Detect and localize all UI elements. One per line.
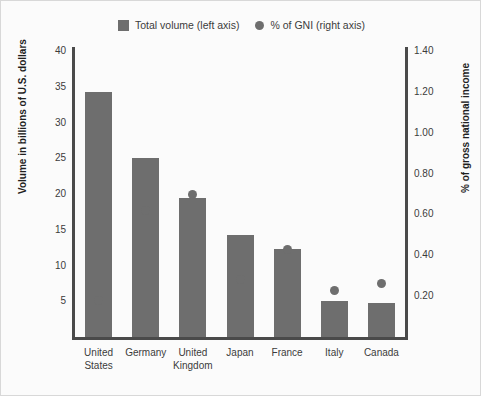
x-axis-category-label: UnitedStates: [75, 347, 122, 372]
chart-figure: Total volume (left axis) % of GNI (right…: [0, 0, 481, 396]
bar: [227, 235, 254, 337]
data-point-dot: [377, 279, 386, 288]
legend-item-total-volume: Total volume (left axis): [118, 19, 239, 31]
x-axis-category-label-line: Germany: [122, 347, 169, 360]
y-axis-left-tick: 10: [55, 261, 75, 271]
y-axis-title-left: Volume in billions of U.S. dollars: [17, 39, 28, 194]
bar: [274, 249, 301, 337]
y-axis-left-tick: 5: [60, 296, 75, 306]
x-axis-category-label: Italy: [311, 347, 358, 360]
bar: [132, 158, 159, 337]
y-axis-right-tick: 0.40: [405, 250, 433, 260]
y-axis-right-tick: 1.40: [405, 46, 433, 56]
x-axis-category-label: Japan: [216, 347, 263, 360]
y-axis-title-right: % of gross national income: [460, 63, 471, 193]
legend-label-total-volume: Total volume (left axis): [135, 19, 239, 31]
x-axis-category-label: Canada: [358, 347, 405, 360]
circle-swatch-icon: [255, 21, 264, 30]
x-axis-category-label-line: Kingdom: [169, 360, 216, 373]
data-point-dot: [283, 245, 292, 254]
x-axis-category-label-line: France: [264, 347, 311, 360]
y-axis-left-tick: 30: [55, 118, 75, 128]
x-axis-category-label-line: United: [169, 347, 216, 360]
y-axis-right-tick: 0.80: [405, 169, 433, 179]
chart-legend: Total volume (left axis) % of GNI (right…: [1, 19, 481, 31]
data-point-dot: [141, 206, 150, 215]
y-axis-left-tick: 25: [55, 153, 75, 163]
plot-area: 510152025303540 0.200.400.600.801.001.20…: [75, 51, 405, 337]
square-swatch-icon: [118, 20, 129, 31]
x-axis-category-label: France: [264, 347, 311, 360]
x-axis-category-label-line: Italy: [311, 347, 358, 360]
y-axis-right-tick: 1.00: [405, 128, 433, 138]
x-axis-category-label-line: Canada: [358, 347, 405, 360]
y-axis-left-tick: 35: [55, 82, 75, 92]
data-point-dot: [188, 190, 197, 199]
legend-item-percent-gni: % of GNI (right axis): [255, 19, 365, 31]
x-axis-category-label-line: States: [75, 360, 122, 373]
y-axis-left-tick: 40: [55, 46, 75, 56]
y-axis-left-tick: 20: [55, 189, 75, 199]
data-point-dot: [94, 296, 103, 305]
y-axis-right-tick: 0.20: [405, 291, 433, 301]
x-axis-category-label-line: United: [75, 347, 122, 360]
y-axis-right-tick: 1.20: [405, 87, 433, 97]
y-axis-left-tick: 15: [55, 225, 75, 235]
x-axis-category-label: Germany: [122, 347, 169, 360]
bar: [179, 198, 206, 337]
data-point-dot: [236, 275, 245, 284]
bar: [321, 301, 348, 337]
bar: [368, 303, 395, 337]
x-axis-category-label-line: Japan: [216, 347, 263, 360]
y-axis-right-tick: 0.60: [405, 209, 433, 219]
data-point-dot: [330, 286, 339, 295]
x-axis-line: [72, 337, 408, 340]
legend-label-percent-gni: % of GNI (right axis): [270, 19, 365, 31]
x-axis-category-label: UnitedKingdom: [169, 347, 216, 372]
